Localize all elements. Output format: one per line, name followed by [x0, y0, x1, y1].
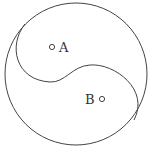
s-curve-divider	[16, 24, 138, 120]
point-b-label: B	[85, 92, 95, 107]
point-a-label: A	[58, 40, 69, 55]
point-b-marker	[99, 96, 104, 101]
point-a-marker	[49, 44, 54, 49]
outer-circle	[5, 3, 147, 145]
diagram-canvas: A B	[0, 0, 152, 159]
